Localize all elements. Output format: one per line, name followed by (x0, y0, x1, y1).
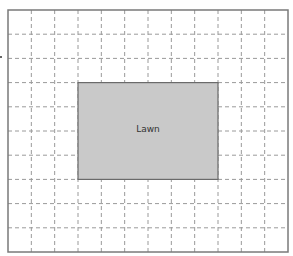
region-label: Lawn (136, 124, 160, 134)
grid-diagram: Lawn (0, 0, 293, 256)
regions: Lawn (78, 83, 218, 180)
grid-canvas: Lawn (0, 0, 293, 256)
region-lawn: Lawn (78, 83, 218, 180)
stray-mark (0, 56, 2, 58)
